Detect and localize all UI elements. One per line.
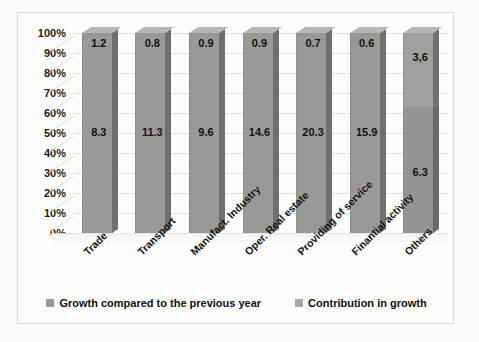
bar-value-label-contribution: 11.3	[135, 126, 169, 138]
chart-side-wall	[51, 33, 74, 233]
chart-frame: 100%90%80%70%60%50%40%30%20%10%0% 1.28.3…	[17, 12, 454, 324]
plot-area: 1.28.30.811.30.99.60.914.60.720.30.615.9…	[73, 33, 448, 233]
side-wall-gridline	[51, 196, 74, 214]
side-wall-gridline	[51, 176, 74, 194]
bar-value-label-growth: 0.9	[189, 37, 223, 49]
bar-value-label-contribution: 9.6	[189, 126, 223, 138]
legend-label: Growth compared to the previous year	[59, 297, 261, 309]
bar-value-label-contribution: 6.3	[403, 166, 437, 178]
bar-value-label-contribution: 14.6	[243, 126, 277, 138]
side-wall-gridline	[51, 56, 74, 74]
bar-column[interactable]: 0.99.6	[189, 33, 219, 233]
side-wall-gridline	[51, 96, 74, 114]
legend-item[interactable]: Contribution in growth	[295, 297, 427, 309]
chart-legend: Growth compared to the previous yearCont…	[18, 297, 455, 309]
legend-label: Contribution in growth	[308, 297, 427, 309]
bar-value-label-growth: 0.8	[135, 37, 169, 49]
side-wall-gridline	[51, 216, 74, 233]
bar-value-label-contribution: 15.9	[350, 126, 384, 138]
bar-value-label-growth: 0.7	[296, 37, 330, 49]
bar-value-label-contribution: 20.3	[296, 126, 330, 138]
side-wall-gridline	[51, 156, 74, 174]
x-axis-labels: TradeTransportManufact. IndustryOper. Re…	[73, 249, 463, 329]
side-wall-gridline	[51, 33, 74, 34]
bar-value-label-growth: 3,6	[403, 51, 437, 63]
legend-swatch-icon	[46, 299, 54, 307]
side-wall-gridline	[51, 36, 74, 54]
side-wall-gridline	[51, 76, 74, 94]
bar-value-label-growth: 0.9	[243, 37, 277, 49]
bar-value-label-growth: 0.6	[350, 37, 384, 49]
side-wall-gridline	[51, 116, 74, 134]
legend-item[interactable]: Growth compared to the previous year	[46, 297, 261, 309]
bar-segment-side-face	[433, 29, 439, 107]
bar-value-label-growth: 1.2	[82, 37, 116, 49]
legend-swatch-icon	[295, 299, 303, 307]
bar-value-label-contribution: 8.3	[82, 126, 116, 138]
side-wall-gridline	[51, 136, 74, 154]
bar-column[interactable]: 1.28.3	[82, 33, 112, 233]
bar-segment-growth[interactable]	[403, 33, 434, 107]
bar-column[interactable]: 0.811.3	[135, 33, 165, 233]
